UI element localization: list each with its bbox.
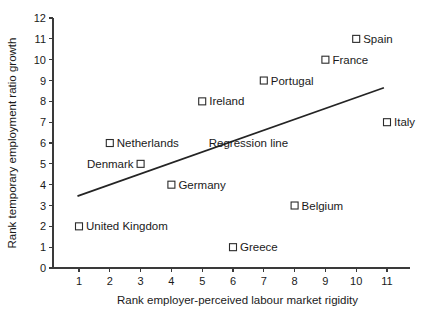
scatter-chart: 1234567891011 0123456789101112 Regressio… bbox=[0, 0, 428, 320]
data-point-label: Ireland bbox=[209, 95, 244, 107]
y-tick-label: 2 bbox=[40, 220, 46, 232]
data-point-label: Spain bbox=[363, 33, 392, 45]
data-point-label: Portugal bbox=[271, 75, 314, 87]
point-marker-square-icon bbox=[291, 202, 298, 209]
y-tick-label: 4 bbox=[40, 179, 46, 191]
y-tick-label: 7 bbox=[40, 116, 46, 128]
point-marker-square-icon bbox=[168, 181, 175, 188]
data-point-label: Netherlands bbox=[117, 137, 179, 149]
data-point: Italy bbox=[384, 116, 416, 128]
point-marker-square-icon bbox=[322, 56, 329, 63]
y-axis-ticks: 0123456789101112 bbox=[34, 12, 53, 274]
y-tick-label: 9 bbox=[40, 75, 46, 87]
y-tick-label: 6 bbox=[40, 137, 46, 149]
data-point: Netherlands bbox=[106, 137, 179, 149]
x-tick-label: 5 bbox=[199, 275, 205, 287]
data-point-label: Belgium bbox=[302, 200, 344, 212]
x-tick-label: 3 bbox=[138, 275, 144, 287]
data-point: Germany bbox=[168, 179, 226, 191]
point-marker-square-icon bbox=[230, 244, 237, 251]
y-tick-label: 3 bbox=[40, 200, 46, 212]
y-axis-title: Rank temporary employment ratio growth bbox=[6, 38, 18, 249]
point-marker-square-icon bbox=[260, 77, 267, 84]
data-point-label: Greece bbox=[240, 241, 278, 253]
x-axis-title: Rank employer-perceived labour market ri… bbox=[117, 294, 358, 306]
data-point: Greece bbox=[230, 241, 278, 253]
y-tick-label: 10 bbox=[34, 54, 46, 66]
x-tick-label: 2 bbox=[107, 275, 113, 287]
x-tick-label: 4 bbox=[168, 275, 174, 287]
x-tick-label: 1 bbox=[76, 275, 82, 287]
x-tick-label: 9 bbox=[322, 275, 328, 287]
data-point: Portugal bbox=[260, 75, 313, 87]
y-tick-label: 11 bbox=[35, 33, 46, 45]
data-point: Denmark bbox=[87, 158, 144, 170]
data-point-label: Germany bbox=[178, 179, 226, 191]
y-tick-label: 5 bbox=[40, 158, 46, 170]
regression-line-label: Regression line bbox=[209, 137, 288, 149]
x-axis-ticks: 1234567891011 bbox=[76, 268, 393, 287]
y-tick-label: 8 bbox=[40, 95, 46, 107]
data-point-label: United Kingdom bbox=[86, 220, 168, 232]
data-point-label: Italy bbox=[394, 116, 415, 128]
y-tick-label: 12 bbox=[34, 12, 46, 24]
point-marker-square-icon bbox=[199, 98, 206, 105]
data-point: Ireland bbox=[199, 95, 245, 107]
point-marker-square-icon bbox=[106, 140, 113, 147]
x-tick-label: 6 bbox=[230, 275, 236, 287]
point-marker-square-icon bbox=[76, 223, 83, 230]
x-tick-label: 7 bbox=[261, 275, 267, 287]
data-point: France bbox=[322, 54, 368, 66]
y-tick-label: 1 bbox=[40, 241, 46, 253]
point-marker-square-icon bbox=[137, 160, 144, 167]
data-point: Spain bbox=[353, 33, 393, 45]
data-point: Belgium bbox=[291, 200, 343, 212]
point-marker-square-icon bbox=[384, 119, 391, 126]
x-tick-label: 11 bbox=[381, 275, 392, 287]
plot-area: 1234567891011 0123456789101112 Regressio… bbox=[0, 0, 428, 320]
data-point: United Kingdom bbox=[76, 220, 168, 232]
data-point-label: France bbox=[332, 54, 368, 66]
data-point-label: Denmark bbox=[87, 158, 134, 170]
y-tick-label: 0 bbox=[40, 262, 46, 274]
x-tick-label: 8 bbox=[292, 275, 298, 287]
x-tick-label: 10 bbox=[350, 275, 362, 287]
point-marker-square-icon bbox=[353, 35, 360, 42]
